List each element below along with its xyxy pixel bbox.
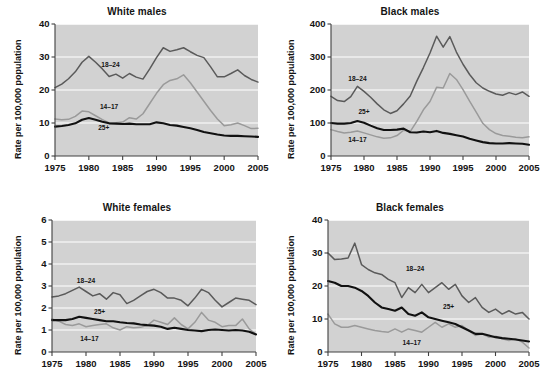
plot-area-white-females: 0123456197519801985199019952000200518–24… — [0, 196, 274, 392]
series-annotation-18-24: 18–24 — [348, 75, 367, 82]
series-annotation-18-24: 18–24 — [101, 61, 120, 68]
x-tick-label: 1980 — [351, 358, 372, 369]
x-tick-label: 1985 — [386, 162, 408, 173]
y-tick-label: 6 — [41, 214, 46, 225]
series-annotation-25+: 25+ — [443, 303, 454, 310]
figure-multipanel-line-charts: White malesRate per 100,000 population01… — [0, 0, 547, 392]
x-tick-label: 1995 — [180, 162, 202, 173]
y-tick-label: 5 — [41, 236, 47, 247]
y-tick-label: 40 — [312, 214, 323, 225]
series-annotation-14-17: 14–17 — [100, 103, 119, 110]
x-tick-label: 2000 — [485, 162, 506, 173]
x-tick-label: 1985 — [384, 358, 406, 369]
plot-area-white-males: 010203040197519801985199019952000200518–… — [0, 0, 274, 196]
y-tick-label: 10 — [312, 313, 323, 324]
y-tick-label: 300 — [310, 51, 326, 62]
y-tick-label: 100 — [310, 117, 326, 128]
x-tick-label: 1995 — [452, 162, 474, 173]
panel-black-males: Black malesRate per 100,000 population01… — [273, 0, 547, 196]
y-tick-label: 10 — [39, 117, 50, 128]
x-tick-label: 1975 — [41, 358, 63, 369]
y-tick-label: 20 — [312, 280, 323, 291]
x-tick-label: 1980 — [353, 162, 374, 173]
y-tick-label: 0 — [41, 346, 46, 357]
series-annotation-25+: 25+ — [358, 108, 369, 115]
x-tick-label: 1990 — [419, 162, 440, 173]
x-tick-label: 1980 — [78, 162, 99, 173]
x-tick-label: 1980 — [75, 358, 96, 369]
y-tick-label: 2 — [41, 302, 46, 313]
y-tick-label: 0 — [317, 346, 322, 357]
x-tick-label: 1985 — [109, 358, 131, 369]
y-tick-label: 3 — [41, 280, 46, 291]
y-tick-label: 4 — [41, 258, 47, 269]
series-annotation-14-17: 14–17 — [80, 335, 99, 342]
y-tick-label: 200 — [310, 84, 326, 95]
x-tick-label: 1995 — [451, 358, 473, 369]
x-tick-label: 1990 — [146, 162, 167, 173]
x-tick-label: 1975 — [317, 358, 339, 369]
x-tick-label: 1975 — [320, 162, 342, 173]
y-tick-label: 30 — [312, 247, 323, 258]
series-annotation-14-17: 14–17 — [348, 136, 367, 143]
x-tick-label: 2005 — [518, 358, 540, 369]
panel-white-males: White malesRate per 100,000 population01… — [0, 0, 274, 196]
x-tick-label: 1985 — [112, 162, 134, 173]
x-tick-label: 1990 — [418, 358, 439, 369]
y-tick-label: 1 — [41, 324, 47, 335]
panel-white-females: White femalesRate per 100,000 population… — [0, 196, 274, 392]
x-tick-label: 2000 — [214, 162, 235, 173]
y-tick-label: 20 — [39, 84, 50, 95]
series-annotation-18-24: 18–24 — [77, 277, 96, 284]
x-tick-label: 2005 — [247, 162, 269, 173]
series-annotation-25+: 25+ — [94, 308, 105, 315]
x-tick-label: 2005 — [518, 162, 540, 173]
plot-area-black-females: 010203040197519801985199019952000200518–… — [273, 196, 547, 392]
x-tick-label: 1990 — [143, 358, 164, 369]
plot-area-black-males: 0100200300400197519801985199019952000200… — [273, 0, 547, 196]
y-tick-label: 0 — [44, 150, 49, 161]
y-tick-label: 0 — [320, 150, 325, 161]
x-tick-label: 2000 — [211, 358, 232, 369]
y-tick-label: 400 — [310, 18, 326, 29]
panel-black-females: Black femalesRate per 100,000 population… — [273, 196, 547, 392]
x-tick-label: 1975 — [44, 162, 66, 173]
x-tick-label: 2000 — [485, 358, 506, 369]
x-tick-label: 1995 — [177, 358, 199, 369]
x-tick-label: 2005 — [245, 358, 267, 369]
series-annotation-14-17: 14–17 — [403, 339, 422, 346]
y-tick-label: 30 — [39, 51, 50, 62]
y-tick-label: 40 — [39, 18, 50, 29]
series-annotation-25+: 25+ — [98, 124, 109, 131]
series-annotation-18-24: 18–24 — [406, 265, 425, 272]
